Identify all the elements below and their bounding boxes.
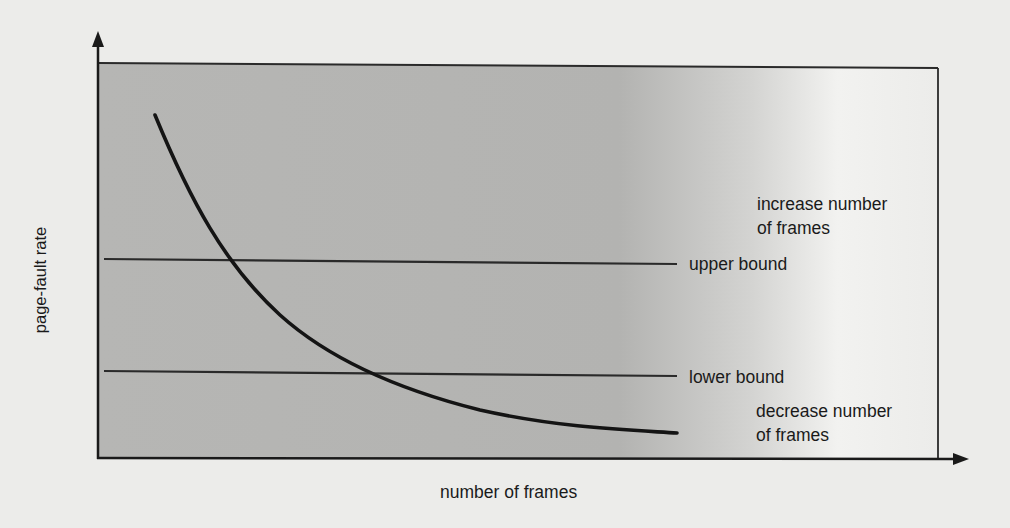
decrease-label-line1: decrease number — [756, 400, 892, 422]
y-axis-arrow-icon — [92, 31, 104, 47]
increase-label-line2: of frames — [757, 217, 830, 239]
x-axis-arrow-icon — [953, 453, 969, 465]
x-axis-label: number of frames — [440, 481, 577, 503]
decrease-label-line2: of frames — [756, 424, 829, 446]
increase-label-line1: increase number — [757, 193, 887, 215]
y-axis-label: page-fault rate — [31, 227, 50, 333]
lower-bound-label: lower bound — [689, 366, 784, 388]
upper-bound-label: upper bound — [689, 253, 787, 275]
x-axis — [97, 458, 956, 459]
diagram-canvas — [0, 0, 1010, 528]
